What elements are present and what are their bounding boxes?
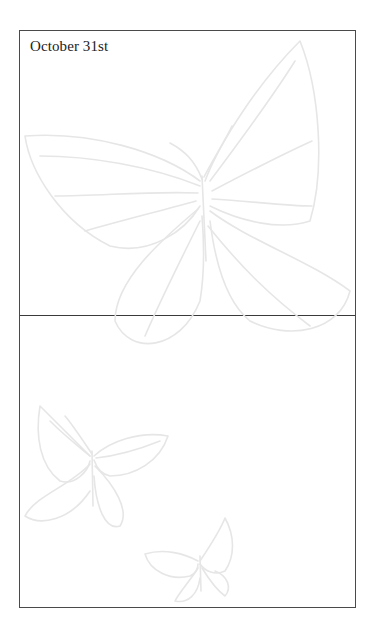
top-panel: October 31st xyxy=(20,31,355,316)
bottom-panel xyxy=(20,316,355,607)
date-heading: October 31st xyxy=(30,38,108,55)
journal-page-frame: October 31st xyxy=(19,30,356,608)
